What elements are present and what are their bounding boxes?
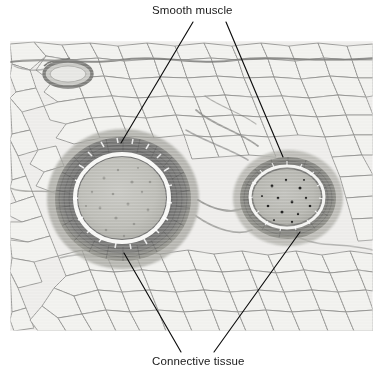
micrograph-image (10, 41, 373, 331)
label-connective-tissue: Connective tissue (152, 355, 244, 367)
label-smooth-muscle: Smooth muscle (152, 4, 233, 16)
micrograph-canvas (0, 0, 384, 374)
histology-figure: Smooth muscle Connective tissue (0, 0, 384, 374)
